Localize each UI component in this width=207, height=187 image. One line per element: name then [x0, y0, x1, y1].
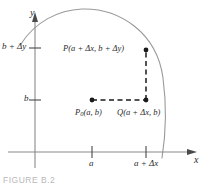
curve-arc	[21, 9, 166, 158]
y-tick-label-b: b	[24, 94, 29, 103]
point-label-p0: P0(a, b)	[75, 108, 102, 118]
point-label-p: P(a + Δx, b + Δy)	[63, 44, 124, 53]
point-dot-q	[144, 98, 149, 103]
y-axis-label: y	[30, 8, 34, 18]
point-label-q: Q(a + Δx, b)	[117, 108, 160, 117]
point-dot-p	[144, 48, 149, 53]
figure-caption: FIGURE B.2	[3, 175, 55, 185]
point-dot-p0	[90, 98, 95, 103]
x-tick-label-a-plus-delta-x: a + Δx	[134, 159, 158, 168]
y-tick-label-b-plus-delta-y: b + Δy	[2, 42, 26, 51]
x-tick-label-a: a	[89, 159, 94, 168]
diagram-canvas	[0, 0, 207, 187]
point-label-p0-coords: (a, b)	[83, 107, 101, 117]
x-axis-label: x	[194, 155, 198, 165]
figure-container: y x b + Δy b a a + Δx P(a + Δx, b + Δy) …	[0, 0, 207, 187]
